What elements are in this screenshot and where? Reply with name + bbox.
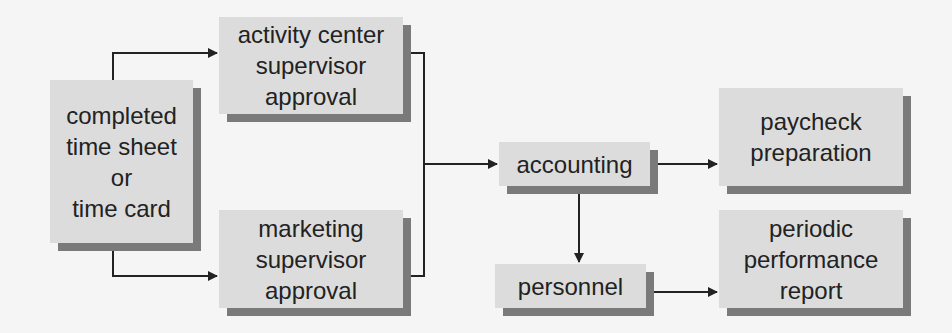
edge-timesheet-marketing <box>113 251 217 276</box>
node-activity-center-approval: activity center supervisor approval <box>219 17 403 114</box>
edge-activity-bracket <box>411 53 424 276</box>
node-periodic-performance-report: periodic performance report <box>719 210 903 308</box>
node-accounting: accounting <box>499 142 650 186</box>
node-paycheck-preparation: paycheck preparation <box>719 88 903 186</box>
node-completed-time-sheet: completed time sheet or time card <box>50 80 193 243</box>
edge-timesheet-activity <box>113 53 217 80</box>
node-marketing-approval: marketing supervisor approval <box>219 210 403 308</box>
node-personnel: personnel <box>495 264 646 308</box>
